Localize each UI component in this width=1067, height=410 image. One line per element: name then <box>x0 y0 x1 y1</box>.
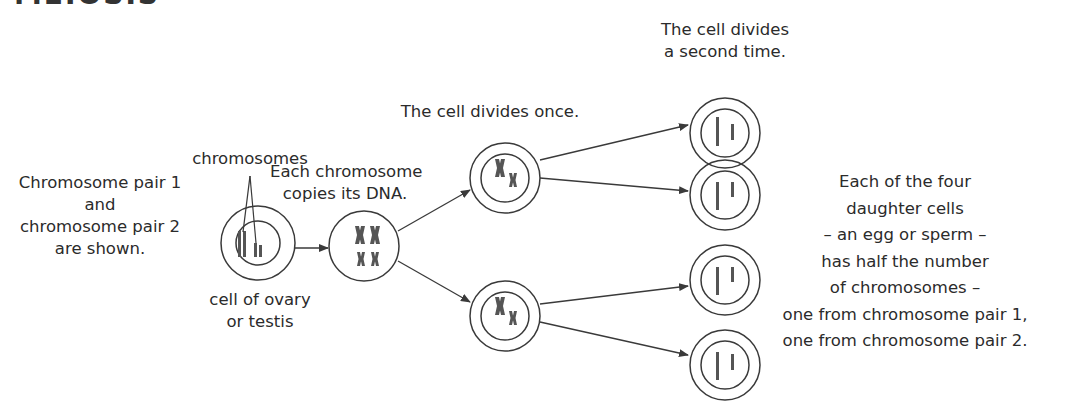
first-division-cell-top <box>470 143 540 213</box>
small-x-chromosome-icon <box>357 252 379 266</box>
daughter-cell-4 <box>690 330 760 400</box>
cell-origin-label: cell of ovary or testis <box>185 289 335 333</box>
chromosome-pairs-label: Chromosome pair 1 and chromosome pair 2 … <box>5 172 195 260</box>
copy-dna-label: Each chromosome copies its DNA. <box>270 161 420 205</box>
arrow-divide-bottom <box>398 261 470 302</box>
divide-twice-label: The cell divides a second time. <box>640 19 810 63</box>
daughter-cell-3 <box>690 245 760 315</box>
first-division-cell-bottom <box>470 281 540 351</box>
daughter-cell-2 <box>690 160 760 230</box>
replicated-cell <box>329 211 399 281</box>
divide-once-label: The cell divides once. <box>395 101 585 123</box>
large-x-chromosome-icon <box>355 226 380 244</box>
chromosome-pair-1-icon <box>238 231 246 257</box>
chromosome-pair-2-icon <box>254 243 262 257</box>
daughter-cells-label: Each of the four daughter cells – an egg… <box>755 169 1055 355</box>
daughter-cell-1 <box>690 98 760 168</box>
